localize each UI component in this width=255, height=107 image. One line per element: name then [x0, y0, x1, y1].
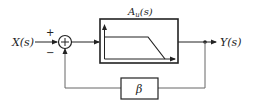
minus-sign: − [46, 47, 54, 58]
feedback-block: β [121, 78, 158, 99]
feedback-block-label: β [135, 83, 142, 96]
summing-junction [59, 36, 72, 49]
input-label: X(s) [11, 36, 34, 49]
forward-block [100, 19, 178, 63]
feedback-diagram: X(s) + − Au(s) Y(s) β [0, 0, 255, 107]
plus-sign: + [46, 27, 54, 38]
forward-block-label: Au(s) [127, 6, 153, 19]
output-label: Y(s) [220, 36, 242, 49]
